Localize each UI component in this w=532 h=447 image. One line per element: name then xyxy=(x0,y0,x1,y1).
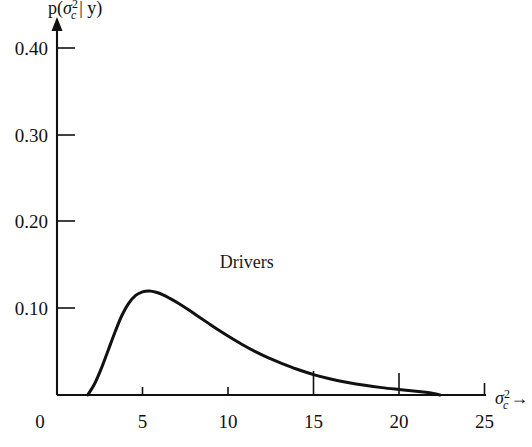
density-plot: 0.40 0.30 0.20 0.10 0 5 10 15 20 25 p(σ2… xyxy=(0,0,532,447)
curve-annotation-drivers: Drivers xyxy=(220,252,274,272)
y-axis-title-subscript: c xyxy=(71,8,77,22)
y-axis-ticks xyxy=(57,48,75,308)
y-axis-tick-labels: 0.40 0.30 0.20 0.10 xyxy=(15,38,48,319)
y-tick-label-0.40: 0.40 xyxy=(15,38,48,59)
density-curve-drivers xyxy=(88,291,440,395)
y-tick-label-0.20: 0.20 xyxy=(15,211,48,232)
y-axis-title: p(σ2c| y) xyxy=(48,0,102,22)
y-axis-title-p: p( xyxy=(48,0,63,19)
x-tick-label-20: 20 xyxy=(390,411,409,432)
x-tick-label-0: 0 xyxy=(35,411,45,432)
x-tick-label-5: 5 xyxy=(138,411,148,432)
x-tick-label-25: 25 xyxy=(475,411,494,432)
x-axis-tick-labels: 0 5 10 15 20 25 xyxy=(35,411,494,432)
x-tick-label-10: 10 xyxy=(219,411,238,432)
y-axis-arrowhead xyxy=(52,17,63,31)
x-axis-title-subscript: c xyxy=(503,398,509,412)
y-tick-label-0.30: 0.30 xyxy=(15,125,48,146)
x-tick-label-15: 15 xyxy=(304,411,323,432)
chart-figure: 0.40 0.30 0.20 0.10 0 5 10 15 20 25 p(σ2… xyxy=(0,0,532,447)
x-axis-title: σ2c→ xyxy=(495,387,528,412)
y-axis-title-condition: | y) xyxy=(79,0,102,19)
x-axis-title-arrow: → xyxy=(510,388,528,408)
y-tick-label-0.10: 0.10 xyxy=(15,298,48,319)
